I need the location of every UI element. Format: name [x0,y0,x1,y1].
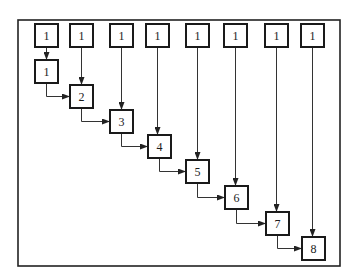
box-label: 1 [44,65,50,79]
cascade-box-1: 1 [35,60,58,83]
cascade-boxes: 12345678 [35,60,325,260]
box-label: 1 [155,29,161,43]
elbow-arrow-7 [278,235,302,249]
top-box-4: 1 [146,24,169,47]
box-label: 1 [44,29,50,43]
top-box-7: 1 [265,24,288,47]
elbow-arrow-6 [237,209,266,224]
box-label: 6 [234,191,240,205]
cascade-box-2: 2 [70,85,93,108]
top-box-3: 1 [110,24,133,47]
top-box-6: 1 [224,24,247,47]
box-label: 1 [195,29,201,43]
box-label: 5 [195,165,201,179]
cascade-box-3: 3 [110,110,133,133]
elbow-arrow-2 [82,108,110,122]
box-label: 2 [79,90,85,104]
outer-frame [18,20,340,266]
box-label: 1 [310,29,316,43]
box-label: 4 [157,140,163,154]
top-box-8: 1 [301,24,324,47]
box-label: 1 [233,29,239,43]
box-label: 8 [311,242,317,256]
box-label: 1 [119,29,125,43]
top-box-1: 1 [35,24,58,47]
top-box-5: 1 [186,24,209,47]
cascade-diagram: 11111111 12345678 [0,0,356,278]
cascade-box-6: 6 [225,186,248,209]
box-label: 1 [79,29,85,43]
cascade-box-4: 4 [148,135,171,158]
cascade-box-5: 5 [186,160,209,183]
box-label: 1 [274,29,280,43]
elbow-arrow-3 [122,133,148,147]
elbow-arrow-5 [198,183,225,198]
cascade-box-7: 7 [266,212,289,235]
box-label: 7 [275,217,281,231]
top-row-boxes: 11111111 [35,24,324,47]
elbow-arrow-4 [160,158,186,172]
box-label: 3 [119,115,125,129]
elbow-arrow-1 [47,83,70,97]
top-box-2: 1 [70,24,93,47]
cascade-box-8: 8 [302,237,325,260]
